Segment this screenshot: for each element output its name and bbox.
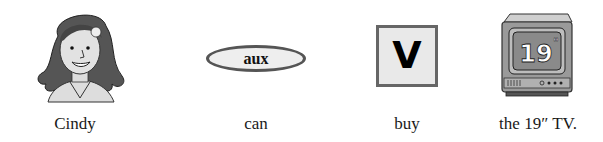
label-can: can [244, 114, 268, 134]
label-tv: the 19″ TV. [499, 114, 577, 134]
item-tv: 19 " the 19″ TV. [470, 0, 603, 142]
item-v: V buy [350, 0, 470, 142]
v-node-text: V [392, 36, 421, 74]
aux-node-text: aux [244, 50, 269, 68]
girl-portrait-icon [30, 6, 130, 104]
television-icon: 19 " [496, 12, 578, 100]
v-node: V [376, 25, 438, 87]
item-cindy: Cindy [0, 0, 150, 142]
svg-text:19: 19 [519, 40, 552, 68]
label-buy: buy [394, 114, 420, 134]
aux-node: aux [206, 45, 306, 72]
item-aux: aux can [150, 0, 350, 142]
svg-text:": " [553, 36, 559, 49]
label-cindy: Cindy [54, 114, 96, 134]
